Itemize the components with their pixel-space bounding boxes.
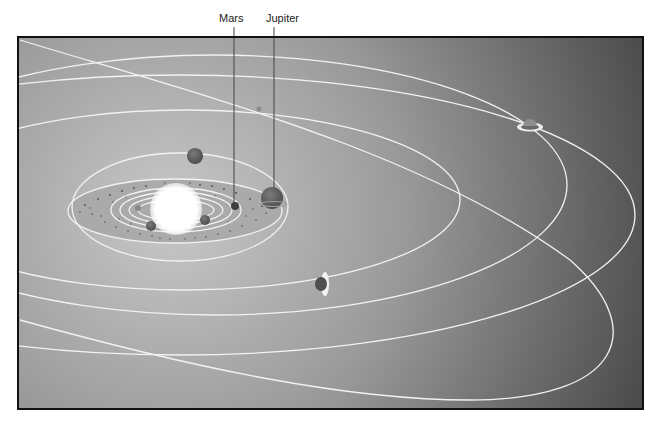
- planet-mercury: [135, 205, 141, 211]
- planet-venus: [146, 221, 156, 231]
- planet-saturn: [187, 148, 203, 164]
- sun: [150, 183, 202, 235]
- planet-earth: [200, 215, 210, 225]
- solar-system-diagram: [0, 0, 660, 421]
- planet-mars: [231, 202, 239, 210]
- planet-pluto: [257, 107, 262, 112]
